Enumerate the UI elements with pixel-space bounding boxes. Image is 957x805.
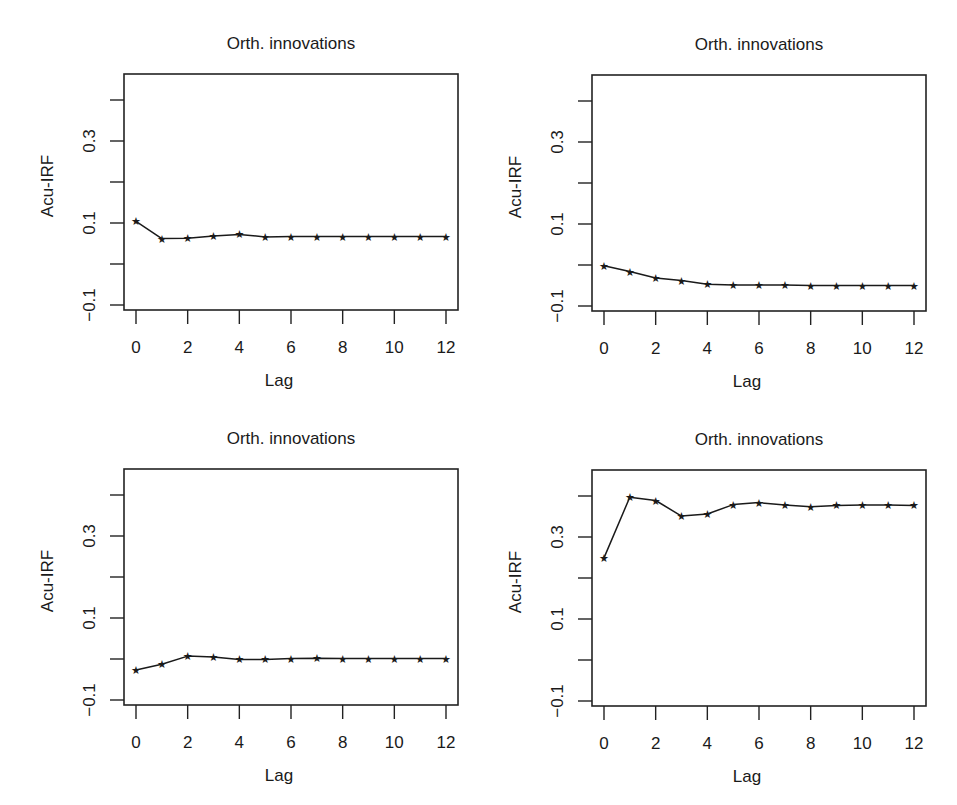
x-tick-label: 12 xyxy=(905,734,924,753)
x-tick-label: 10 xyxy=(385,338,404,357)
star-marker-icon: ★ xyxy=(832,280,842,292)
star-marker-icon: ★ xyxy=(441,653,451,665)
star-marker-icon: ★ xyxy=(702,278,712,290)
x-tick-label: 6 xyxy=(286,733,295,752)
x-tick-label: 6 xyxy=(754,339,763,358)
panel-top-left: Orth. innovations−0.10.10.3024681012LagA… xyxy=(38,34,458,390)
panel-bottom-left: Orth. innovations−0.10.10.3024681012LagA… xyxy=(38,429,458,785)
star-marker-icon: ★ xyxy=(389,653,399,665)
y-tick-label: −0.1 xyxy=(548,684,567,718)
star-marker-icon: ★ xyxy=(651,272,661,284)
x-tick-label: 2 xyxy=(651,339,660,358)
star-marker-icon: ★ xyxy=(234,228,244,240)
star-marker-icon: ★ xyxy=(702,508,712,520)
y-tick-label: 0.1 xyxy=(548,607,567,631)
star-marker-icon: ★ xyxy=(728,279,738,291)
star-marker-icon: ★ xyxy=(389,231,399,243)
x-tick-label: 4 xyxy=(235,338,244,357)
y-tick-label: −0.1 xyxy=(548,289,567,323)
x-axis-label: Lag xyxy=(733,372,761,391)
y-tick-label: 0.3 xyxy=(548,525,567,549)
y-tick-label: 0.3 xyxy=(548,130,567,154)
plot-frame xyxy=(592,75,926,311)
star-marker-icon: ★ xyxy=(312,652,322,664)
x-tick-label: 12 xyxy=(905,339,924,358)
star-marker-icon: ★ xyxy=(415,653,425,665)
x-tick-label: 2 xyxy=(183,733,192,752)
star-marker-icon: ★ xyxy=(806,280,816,292)
star-marker-icon: ★ xyxy=(883,499,893,511)
x-tick-label: 8 xyxy=(806,339,815,358)
star-marker-icon: ★ xyxy=(415,231,425,243)
star-marker-icon: ★ xyxy=(260,653,270,665)
chart-title: Orth. innovations xyxy=(227,429,356,448)
star-marker-icon: ★ xyxy=(780,279,790,291)
star-marker-icon: ★ xyxy=(909,499,919,511)
star-marker-icon: ★ xyxy=(728,499,738,511)
x-tick-label: 8 xyxy=(338,338,347,357)
x-tick-label: 4 xyxy=(703,339,712,358)
star-marker-icon: ★ xyxy=(286,653,296,665)
star-marker-icon: ★ xyxy=(183,232,193,244)
y-tick-label: 0.1 xyxy=(548,212,567,236)
y-tick-label: 0.1 xyxy=(80,211,99,235)
x-tick-label: 0 xyxy=(131,338,140,357)
plot-frame xyxy=(124,469,458,705)
y-tick-label: −0.1 xyxy=(80,288,99,322)
x-axis-label: Lag xyxy=(733,767,761,786)
star-marker-icon: ★ xyxy=(338,231,348,243)
chart-title: Orth. innovations xyxy=(227,34,356,53)
irf-figure-canvas: Orth. innovations−0.10.10.3024681012LagA… xyxy=(0,0,957,805)
panel-top-right: Orth. innovations−0.10.10.3024681012LagA… xyxy=(506,35,926,391)
x-tick-label: 10 xyxy=(853,339,872,358)
x-tick-label: 0 xyxy=(599,734,608,753)
y-tick-label: 0.3 xyxy=(80,524,99,548)
star-marker-icon: ★ xyxy=(209,651,219,663)
x-tick-label: 12 xyxy=(437,733,456,752)
panel-bottom-right: Orth. innovations−0.10.10.3024681012LagA… xyxy=(506,430,926,786)
x-tick-label: 4 xyxy=(235,733,244,752)
star-marker-icon: ★ xyxy=(157,658,167,670)
y-tick-label: −0.1 xyxy=(80,683,99,717)
star-marker-icon: ★ xyxy=(754,279,764,291)
x-tick-label: 10 xyxy=(385,733,404,752)
star-marker-icon: ★ xyxy=(364,653,374,665)
star-marker-icon: ★ xyxy=(857,499,867,511)
x-tick-label: 12 xyxy=(437,338,456,357)
x-tick-label: 2 xyxy=(651,734,660,753)
star-marker-icon: ★ xyxy=(312,231,322,243)
star-marker-icon: ★ xyxy=(677,510,687,522)
star-marker-icon: ★ xyxy=(131,664,141,676)
star-marker-icon: ★ xyxy=(806,501,816,513)
x-tick-label: 8 xyxy=(338,733,347,752)
star-marker-icon: ★ xyxy=(754,497,764,509)
star-marker-icon: ★ xyxy=(780,499,790,511)
star-marker-icon: ★ xyxy=(338,653,348,665)
x-axis-label: Lag xyxy=(265,371,293,390)
star-marker-icon: ★ xyxy=(183,650,193,662)
plot-frame xyxy=(124,74,458,310)
x-tick-label: 4 xyxy=(703,734,712,753)
star-marker-icon: ★ xyxy=(883,280,893,292)
star-marker-icon: ★ xyxy=(157,233,167,245)
irf-figure: Orth. innovations−0.10.10.3024681012LagA… xyxy=(0,0,957,805)
star-marker-icon: ★ xyxy=(209,230,219,242)
y-axis-label: Acu-IRF xyxy=(506,551,525,613)
star-marker-icon: ★ xyxy=(651,495,661,507)
star-marker-icon: ★ xyxy=(441,231,451,243)
x-tick-label: 8 xyxy=(806,734,815,753)
star-marker-icon: ★ xyxy=(599,260,609,272)
star-marker-icon: ★ xyxy=(286,231,296,243)
star-marker-icon: ★ xyxy=(234,653,244,665)
x-tick-label: 0 xyxy=(131,733,140,752)
chart-title: Orth. innovations xyxy=(695,35,824,54)
x-tick-label: 6 xyxy=(286,338,295,357)
star-marker-icon: ★ xyxy=(832,499,842,511)
x-tick-label: 6 xyxy=(754,734,763,753)
star-marker-icon: ★ xyxy=(677,275,687,287)
star-marker-icon: ★ xyxy=(625,266,635,278)
x-axis-label: Lag xyxy=(265,766,293,785)
y-tick-label: 0.1 xyxy=(80,606,99,630)
star-marker-icon: ★ xyxy=(131,215,141,227)
star-marker-icon: ★ xyxy=(625,491,635,503)
